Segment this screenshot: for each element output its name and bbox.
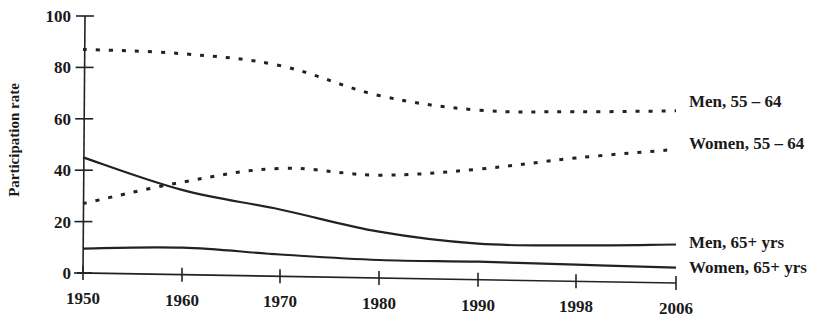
x-tick-label: 1960 bbox=[165, 291, 199, 310]
y-axis-title: Participation rate bbox=[6, 83, 22, 197]
series-line-men-55-64 bbox=[83, 49, 676, 112]
y-tick-label: 20 bbox=[54, 213, 71, 232]
legend-label-women-65-yrs: Women, 65+ yrs bbox=[689, 258, 807, 277]
x-tick-label: 1950 bbox=[66, 289, 100, 308]
y-tick-label: 100 bbox=[46, 7, 72, 26]
y-tick-label: 60 bbox=[54, 110, 71, 129]
x-axis: 1950196019701980199019982006 bbox=[66, 266, 693, 318]
series-line-men-65-yrs bbox=[83, 157, 676, 245]
legend: Men, 55 – 64Women, 55 – 64Men, 65+ yrsWo… bbox=[689, 92, 807, 277]
series-line-women-55-64 bbox=[83, 149, 676, 203]
x-tick-label: 1990 bbox=[461, 296, 495, 315]
series-lines bbox=[83, 49, 676, 267]
y-tick-label: 0 bbox=[63, 264, 72, 283]
x-tick-label: 1980 bbox=[362, 294, 396, 313]
x-tick-label: 1998 bbox=[559, 297, 593, 316]
y-tick-label: 40 bbox=[54, 161, 71, 180]
x-axis-line bbox=[77, 273, 676, 283]
y-tick-label: 80 bbox=[54, 58, 71, 77]
legend-label-men-55-64: Men, 55 – 64 bbox=[689, 92, 782, 111]
line-chart: 020406080100 195019601970198019901998200… bbox=[0, 0, 835, 325]
y-axis-line bbox=[83, 16, 85, 273]
legend-label-women-55-64: Women, 55 – 64 bbox=[689, 134, 805, 153]
series-line-women-65-yrs bbox=[83, 247, 676, 267]
legend-label-men-65-yrs: Men, 65+ yrs bbox=[689, 233, 785, 252]
x-tick-label: 1970 bbox=[263, 292, 297, 311]
x-tick-label: 2006 bbox=[659, 299, 693, 318]
